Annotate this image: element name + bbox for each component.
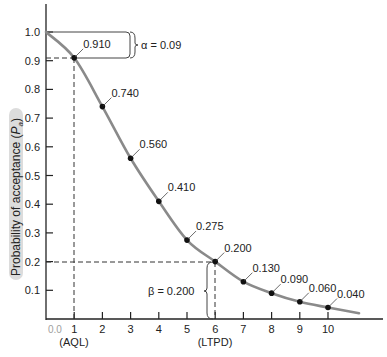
oc-curve xyxy=(46,32,359,313)
x-tick-label: 3 xyxy=(128,323,134,335)
label-leader xyxy=(244,273,252,281)
label-leader xyxy=(160,192,168,200)
aql-label: (AQL) xyxy=(59,336,88,348)
beta-label: β = 0.200 xyxy=(148,285,194,297)
point-label: 0.200 xyxy=(224,242,252,254)
point-label: 0.040 xyxy=(337,288,365,300)
y-tick-label: 0.3 xyxy=(25,227,40,239)
y-tick-label: 0.8 xyxy=(25,83,40,95)
x-tick-label: 9 xyxy=(297,323,303,335)
y-tick-label: 0.9 xyxy=(25,55,40,67)
point-label: 0.410 xyxy=(168,181,196,193)
x-tick-label: 7 xyxy=(240,323,246,335)
y-tick-label: 0.6 xyxy=(25,141,40,153)
ltpd-label: (LTPD) xyxy=(198,336,233,348)
x-tick-label: 1 xyxy=(71,323,77,335)
x-tick-label: 8 xyxy=(269,323,275,335)
y-tick-label: 0.1 xyxy=(25,284,40,296)
beta-brace xyxy=(204,262,213,319)
point-label: 0.090 xyxy=(281,273,309,285)
y-tick-label: 0.4 xyxy=(25,198,40,210)
point-label: 0.130 xyxy=(252,262,280,274)
y-axis-label: Probability of acceptance (Pa) xyxy=(9,118,25,276)
point-label: 0.560 xyxy=(140,138,168,150)
x-tick-label: 5 xyxy=(184,323,190,335)
oc-curve-chart: Probability of acceptance (Pa) 0.10.20.3… xyxy=(0,0,387,357)
point-label: 0.910 xyxy=(83,38,111,50)
label-leader xyxy=(216,253,224,261)
x-tick-label: 6 xyxy=(212,323,218,335)
label-leader xyxy=(301,293,309,301)
data-points: 0.9100.7400.5600.4100.2750.2000.1300.090… xyxy=(71,38,364,310)
y-ticks: 0.10.20.30.40.50.60.70.80.91.0 xyxy=(25,26,53,296)
point-label: 0.275 xyxy=(196,220,224,232)
point-label: 0.060 xyxy=(309,282,337,294)
label-leader xyxy=(329,299,337,307)
x-tick-label: 10 xyxy=(322,323,334,335)
point-label: 0.740 xyxy=(111,87,139,99)
y-tick-label: 1.0 xyxy=(25,26,40,38)
label-leader xyxy=(273,284,281,292)
label-leader xyxy=(103,98,111,106)
alpha-brace xyxy=(130,32,138,58)
x-tick-label: 4 xyxy=(156,323,162,335)
x-ticks: 12345678910 xyxy=(71,312,334,335)
label-leader xyxy=(132,149,140,157)
y-tick-label: 0.2 xyxy=(25,256,40,268)
y-tick-label: 0.7 xyxy=(25,112,40,124)
origin-scribble: 0.0 xyxy=(48,324,62,335)
alpha-label: α = 0.09 xyxy=(141,39,181,51)
label-leader xyxy=(188,231,196,239)
x-tick-label: 2 xyxy=(99,323,105,335)
label-leader xyxy=(75,49,83,57)
y-tick-label: 0.5 xyxy=(25,170,40,182)
